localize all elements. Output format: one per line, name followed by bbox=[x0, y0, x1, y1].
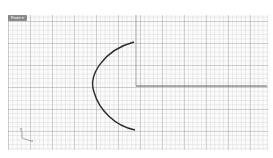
axis-widget-x bbox=[22, 138, 31, 141]
chevron-down-icon: ▼ bbox=[21, 16, 24, 20]
arc-curve[interactable] bbox=[93, 42, 135, 130]
viewport-title-tab[interactable]: Front▼ bbox=[8, 15, 27, 21]
viewport-geometry bbox=[0, 0, 273, 158]
viewport-title: Front bbox=[11, 15, 20, 20]
viewport-front[interactable]: Front▼ y x bbox=[0, 0, 273, 158]
axis-label-y: y bbox=[20, 127, 22, 131]
axis-label-x: x bbox=[31, 139, 33, 143]
